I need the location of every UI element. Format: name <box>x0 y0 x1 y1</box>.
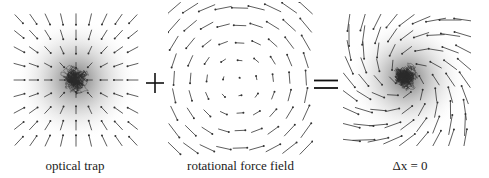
equals-icon <box>314 79 338 90</box>
rotational-field-panel <box>168 2 313 157</box>
rotational-field-label: rotational force field <box>178 158 303 174</box>
combined-label: Δx = 0 <box>380 158 440 174</box>
optical-trap-field <box>12 12 140 148</box>
equals-operator <box>314 75 338 94</box>
delta-x-equation: Δx = 0 <box>392 158 427 173</box>
optical-trap-label: optical trap <box>40 158 110 174</box>
combined-spiral-field <box>343 14 471 146</box>
plus-icon <box>146 73 164 93</box>
optical-trap-panel <box>12 12 140 148</box>
rotational-force-field <box>168 2 313 157</box>
plus-operator <box>146 73 164 97</box>
combined-panel <box>343 14 471 146</box>
